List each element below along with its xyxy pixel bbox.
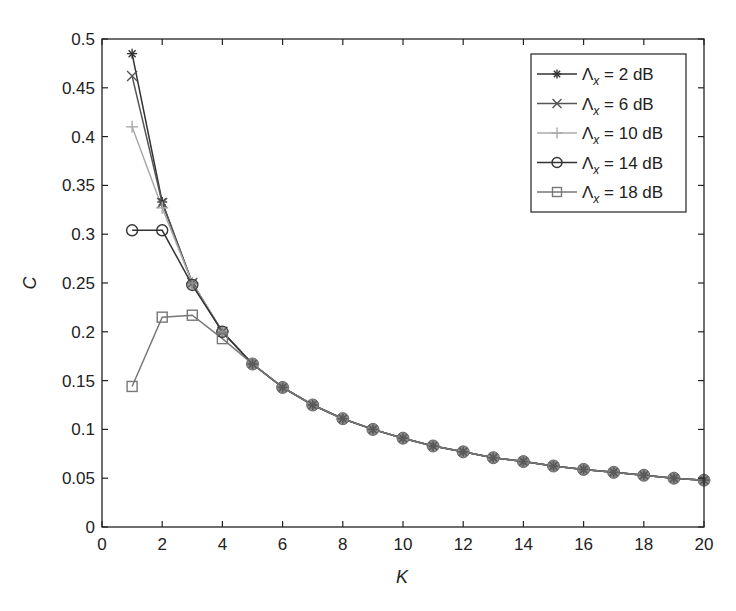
x-tick-label: 8 [338,535,347,554]
legend-marker-asterisk-icon [553,70,562,79]
x-axis-label: K [396,567,409,587]
series-markers [127,49,227,337]
x-tick-label: 12 [454,535,473,554]
x-tick-label: 20 [695,535,714,554]
x-tick-label: 16 [574,535,593,554]
x-tick-label: 14 [514,535,533,554]
y-tick-label: 0.1 [71,420,95,439]
y-tick-label: 0 [86,518,95,537]
legend: Λx = 2 dBΛx = 6 dBΛx = 10 dBΛx = 14 dBΛx… [531,54,686,212]
overlapped-markers [187,279,710,486]
x-tick-label: 2 [157,535,166,554]
x-tick-label: 4 [218,535,227,554]
series-markers [127,71,227,337]
y-tick-label: 0.35 [62,176,95,195]
y-tick-label: 0.15 [62,372,95,391]
x-tick-label: 0 [97,535,106,554]
y-tick-label: 0.5 [71,30,95,49]
x-tick-label: 6 [278,535,287,554]
y-tick-label: 0.4 [71,128,95,147]
series-markers [127,310,227,391]
y-tick-label: 0.2 [71,323,95,342]
line-chart: 0246810121416182000.050.10.150.20.250.30… [0,0,736,611]
y-tick-label: 0.45 [62,79,95,98]
x-tick-label: 10 [394,535,413,554]
y-tick-label: 0.3 [71,225,95,244]
y-tick-label: 0.05 [62,469,95,488]
x-tick-label: 18 [634,535,653,554]
y-tick-label: 0.25 [62,274,95,293]
y-axis-label: C [20,276,40,290]
